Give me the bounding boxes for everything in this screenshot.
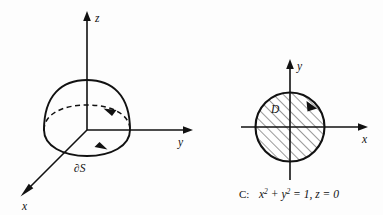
hemisphere-3d-diagram: z y x ∂S (21, 11, 194, 212)
disk-axis-x-arrowhead (358, 123, 368, 131)
figure-root: z y x ∂S (0, 0, 383, 215)
region-label-D: D (270, 103, 280, 115)
back-rim-arrowhead (104, 109, 117, 117)
caption-equation: x2 + y2 = 1, z = 0 (258, 187, 339, 201)
axis-z-label: z (94, 12, 100, 24)
curve-caption: C: x2 + y2 = 1, z = 0 (239, 187, 339, 201)
axis-z: z (83, 11, 100, 130)
caption-eq-plus: + (268, 188, 282, 200)
caption-curve-name: C: (239, 188, 249, 200)
axis-y-label: y (177, 136, 184, 149)
disk-axis-x-label: x (361, 133, 368, 145)
axis-x-label: x (21, 200, 28, 212)
front-rim-arrowhead (95, 142, 108, 150)
hemisphere-front-rim (44, 130, 130, 156)
boundary-curve-label: ∂S (74, 162, 86, 174)
axis-z-arrowhead (83, 11, 91, 21)
math-figure: z y x ∂S (0, 0, 383, 215)
caption-eq-tail: = 1, z = 0 (290, 188, 339, 201)
axis-y-arrowhead (183, 126, 193, 134)
disk-axis-y-arrowhead (286, 59, 294, 69)
disk-2d-diagram: y x D C: x2 + y2 = 1, z (239, 59, 368, 201)
disk-axis-y-label: y (296, 60, 303, 73)
